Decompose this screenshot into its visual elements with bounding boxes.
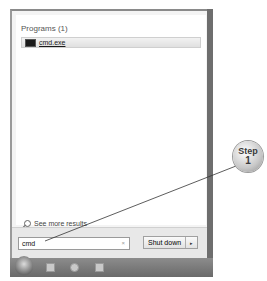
callout-line xyxy=(0,0,267,281)
step-number: 1 xyxy=(233,156,263,166)
step-callout-badge: Step 1 xyxy=(233,141,263,172)
